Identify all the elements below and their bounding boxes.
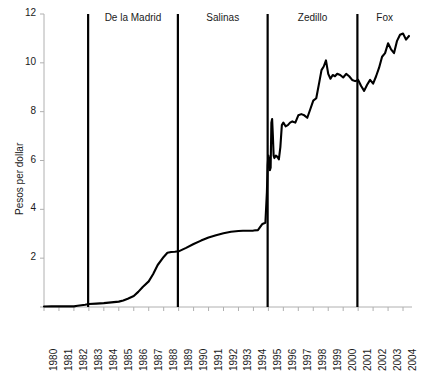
x-tick-label: 1983 <box>93 349 104 371</box>
x-tick-label: 1988 <box>168 349 179 371</box>
y-tick-label: 10 <box>10 56 36 67</box>
x-tick-label: 1989 <box>183 349 194 371</box>
x-tick-label: 1984 <box>108 349 119 371</box>
x-tick-label: 1999 <box>332 349 343 371</box>
x-tick-label: 1991 <box>213 349 224 371</box>
y-tick-label: 12 <box>10 7 36 18</box>
x-tick-label: 1997 <box>302 349 313 371</box>
line-chart-plot <box>0 0 426 373</box>
x-tick-label: 2004 <box>407 349 418 371</box>
x-tick-label: 1981 <box>63 349 74 371</box>
presidential-term-dividers <box>88 14 357 307</box>
x-tick-label: 1985 <box>123 349 134 371</box>
x-tick-label: 1993 <box>242 349 253 371</box>
president-term-label: Zedillo <box>268 12 358 23</box>
president-term-label: De la Madrid <box>88 12 178 23</box>
x-tick-label: 2001 <box>362 349 373 371</box>
x-tick-label: 1995 <box>272 349 283 371</box>
x-tick-label: 1998 <box>317 349 328 371</box>
y-axis-title: Pesos per dollar <box>14 143 25 215</box>
x-tick-label: 2002 <box>377 349 388 371</box>
president-term-label: Salinas <box>178 12 268 23</box>
x-tick-label: 1996 <box>287 349 298 371</box>
x-tick-label: 2003 <box>392 349 403 371</box>
chart-axes <box>40 14 412 311</box>
x-tick-label: 1994 <box>257 349 268 371</box>
y-tick-label: 2 <box>10 251 36 262</box>
x-tick-label: 1982 <box>78 349 89 371</box>
exchange-rate-series <box>44 34 409 307</box>
x-tick-label: 2000 <box>347 349 358 371</box>
x-tick-label: 1992 <box>228 349 239 371</box>
x-tick-label: 1990 <box>198 349 209 371</box>
x-tick-label: 1980 <box>48 349 59 371</box>
chart-canvas: 24681012 1980198119821983198419851986198… <box>0 0 426 373</box>
president-term-label: Fox <box>357 12 412 23</box>
x-tick-label: 1986 <box>138 349 149 371</box>
x-tick-label: 1987 <box>153 349 164 371</box>
y-tick-label: 8 <box>10 105 36 116</box>
